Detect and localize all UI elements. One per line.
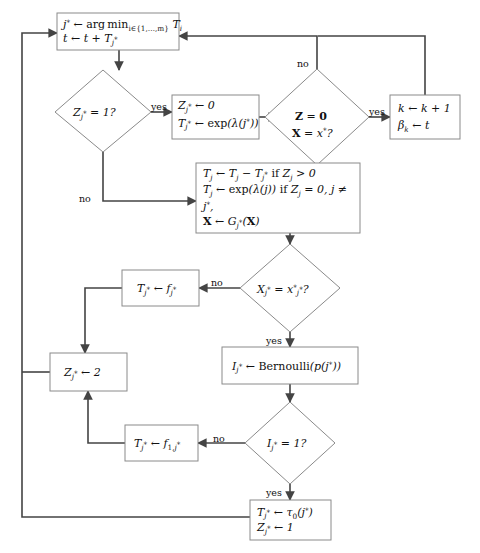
node-set-tau0-line-2: Zj* ← 1: [257, 521, 294, 536]
edge-settjf1-to-zj2: [88, 391, 125, 443]
edge-label-ij-no: no: [213, 433, 225, 444]
node-z-zero-line-2: X = x*?: [292, 126, 333, 141]
edge-label-zj-yes: yes: [151, 101, 167, 112]
node-reset-zj-line-1: Zj* ← 0: [178, 99, 215, 114]
node-increment-k-line-2: βk ← t: [398, 119, 429, 134]
node-update-line-4: X ← Gj*(X): [203, 215, 260, 230]
flowchart-canvas: j* ← arg mini∈{1,…,m} Ti t ← t + Tj* Zj*…: [0, 0, 480, 553]
node-reset-zj-line-2: Tj* ← exp(λ(j*)): [178, 116, 258, 131]
node-set-tj-fj-text: Tj* ← fj*: [137, 282, 176, 297]
edge-zj-no-to-update: [103, 152, 196, 201]
node-zj-eq-1-text: Zj* = 1?: [73, 106, 116, 121]
node-init-line-1: j* ← arg mini∈{1,…,m} Ti: [63, 17, 182, 32]
edge-label-ij-yes: yes: [266, 487, 282, 498]
node-xj-eq-xstar-text: Xj* = x*j*?: [257, 282, 309, 297]
node-increment-k-line-1: k ← k + 1: [398, 102, 451, 116]
node-init-line-2: t ← t + Tj*: [63, 32, 118, 47]
node-set-tau0-line-1: Tj* ← τ0(j*): [257, 505, 313, 520]
edge-settj-to-zj2: [85, 288, 122, 353]
edge-label-zj-no: no: [79, 193, 91, 204]
node-set-zj-2-text: Zj* ← 2: [64, 366, 101, 381]
edge-label-zzero-yes: yes: [369, 106, 385, 117]
node-set-tj-f1j-text: Tj* ← f1,j*: [134, 437, 180, 452]
edge-label-xj-no: no: [211, 277, 223, 288]
flowchart-svg: [0, 0, 480, 553]
edge-label-xj-yes: yes: [266, 335, 282, 346]
node-ij-eq-1-text: Ij* = 1?: [267, 437, 306, 452]
node-update-line-1: Tj ← Tj − Tj* if Zj > 0: [203, 167, 316, 182]
edge-label-zzero-no: no: [297, 58, 309, 69]
node-bernoulli-text: Ij* ← Bernoulli(p(j*)): [232, 359, 341, 374]
node-z-zero-line-1: Z = 0: [295, 110, 327, 124]
node-update-line-3: j*,: [203, 199, 214, 214]
node-update-line-2: Tj ← exp(λ(j)) if Zj = 0, j ≠: [203, 183, 347, 198]
